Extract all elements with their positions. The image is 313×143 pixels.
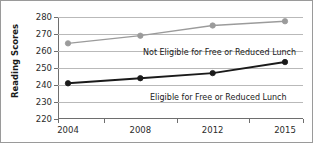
x-tick-label: 2015	[274, 125, 296, 135]
data-point-marker	[138, 33, 143, 38]
y-tick-label: 250	[36, 63, 52, 73]
reading-scores-line-chart: Reading Scores 280270260250240230220 200…	[0, 0, 313, 143]
x-tick-mark	[177, 119, 178, 123]
y-tick-label: 220	[36, 114, 52, 124]
x-tick-label: 2008	[130, 125, 152, 135]
y-tick-label: 230	[36, 97, 52, 107]
series-line	[68, 21, 285, 43]
plot-area: 280270260250240230220 2004200820122015 N…	[58, 17, 303, 119]
series-eligible	[65, 59, 287, 86]
data-point-marker	[210, 23, 215, 28]
series-label-not-eligible: Not Eligible for Free or Reduced Lunch	[143, 48, 296, 57]
series-line	[68, 62, 285, 83]
data-point-marker	[282, 19, 287, 24]
y-tick-label: 260	[36, 46, 52, 56]
data-point-marker	[65, 41, 70, 46]
x-tick-label: 2012	[202, 125, 224, 135]
x-tick-mark	[303, 119, 304, 123]
data-point-marker	[138, 76, 143, 81]
series-not-eligible	[65, 19, 287, 47]
data-point-marker	[210, 70, 215, 75]
x-tick-label: 2004	[57, 125, 79, 135]
data-point-marker	[65, 81, 70, 86]
x-tick-mark	[104, 119, 105, 123]
series-label-eligible: Eligible for Free or Reduced Lunch	[150, 93, 287, 102]
x-tick-mark	[58, 119, 59, 123]
y-tick-label: 270	[36, 29, 52, 39]
series-layer	[58, 17, 303, 119]
y-axis-title: Reading Scores	[10, 16, 20, 106]
data-point-marker	[282, 59, 287, 64]
y-tick-label: 240	[36, 80, 52, 90]
x-tick-mark	[249, 119, 250, 123]
y-tick-label: 280	[36, 12, 52, 22]
